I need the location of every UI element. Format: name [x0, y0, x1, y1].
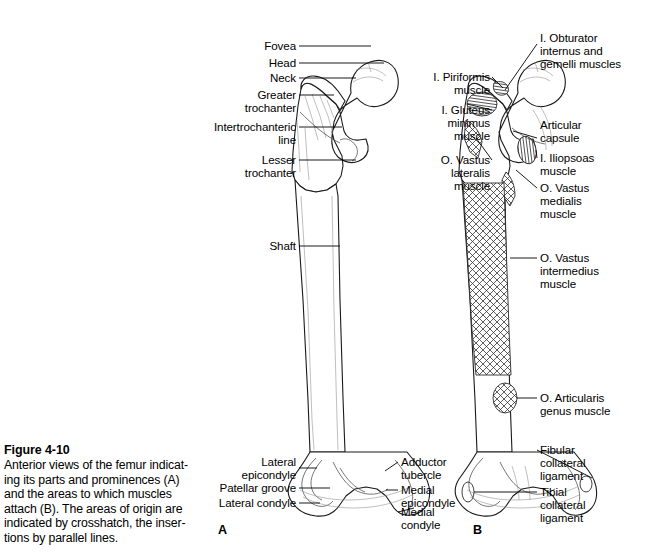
label-vastus-medialis: O. Vastus medialis muscle [540, 181, 651, 221]
figure-caption: Figure 4-10 Anterior views of the femur … [4, 443, 204, 546]
label-intertrochanteric-line: Intertrochanteric line [160, 120, 296, 146]
label-medial-condyle: Medial condyle [401, 505, 511, 531]
label-articularis-genus: O. Articularis genus muscle [540, 391, 651, 417]
articularis-genus-area [493, 383, 517, 413]
label-lesser-trochanter: Lesser trochanter [180, 153, 296, 179]
label-greater-trochanter: Greater trochanter [180, 88, 296, 114]
label-neck: Neck [180, 71, 296, 84]
figure-number: Figure 4-10 [4, 443, 204, 458]
label-obturator-internus-gemelli: I. Obturator internus and gemelli muscle… [540, 31, 651, 71]
panel-letter-b: B [473, 523, 482, 537]
label-shaft: Shaft [180, 239, 296, 252]
caption-line-4: attach (B). The areas of origin are [4, 502, 204, 517]
vastus-medialis-area [502, 172, 515, 206]
caption-line-6: tions by parallel lines. [4, 531, 204, 546]
caption-line-5: indicated by crosshatch, the inser- [4, 516, 204, 531]
panel-letter-a: A [218, 523, 227, 537]
iliopsoas-area [515, 134, 538, 165]
caption-line-1: Anterior views of the femur indicat- [4, 458, 204, 473]
caption-line-3: and the areas to which muscles [4, 487, 204, 502]
label-tibial-collateral-ligament: Tibial collateral ligament [540, 485, 651, 525]
label-head: Head [180, 56, 296, 69]
figure-illustration: Fovea Head Neck Greater trochanter Inter… [0, 0, 651, 560]
label-fovea: Fovea [180, 39, 296, 52]
label-adductor-tubercle: Adductor tubercle [401, 455, 511, 481]
label-vastus-intermedius: O. Vastus intermedius muscle [540, 251, 651, 291]
label-vastus-lateralis: O. Vastus lateralis muscle [396, 153, 490, 193]
label-piriformis: I. Piriformis muscle [396, 70, 490, 96]
label-fibular-collateral-ligament: Fibular collateral ligament [540, 443, 651, 483]
label-gluteus-minimus: I. Gluteus minimus muscle [396, 103, 490, 143]
figure-caption-text: Anterior views of the femur indicat- ing… [4, 458, 204, 546]
caption-line-2: ing its parts and prominences (A) [4, 473, 204, 488]
label-iliopsoas: I. Iliopsoas muscle [540, 151, 651, 177]
vastus-intermedius-area [463, 183, 511, 375]
label-articular-capsule: Articular capsule [540, 118, 651, 144]
piriformis-area [493, 82, 508, 96]
